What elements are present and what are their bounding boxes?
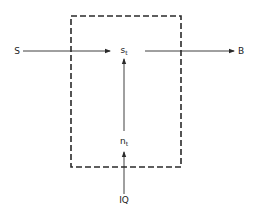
- node-nt-subscript: t: [126, 140, 128, 147]
- node-iq-text: IQ: [119, 195, 129, 205]
- node-s-label: S: [14, 46, 20, 56]
- node-iq-label: IQ: [119, 195, 129, 205]
- node-st-label: st: [120, 45, 127, 58]
- flow-diagram: [0, 0, 256, 212]
- node-b-text: B: [238, 46, 244, 56]
- node-nt-label: nt: [120, 136, 128, 149]
- node-s-text: S: [14, 46, 20, 56]
- node-b-label: B: [238, 46, 244, 56]
- node-st-subscript: t: [125, 49, 127, 56]
